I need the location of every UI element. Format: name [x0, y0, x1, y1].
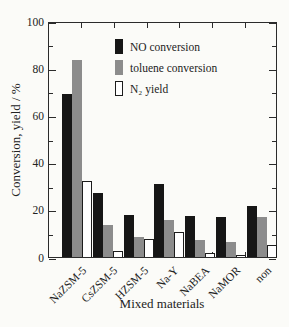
y-major-tick — [269, 70, 276, 71]
x-category-label: Na-Y — [154, 264, 181, 291]
legend-marker-toluene-conversion — [115, 60, 123, 75]
y-major-tick — [269, 23, 276, 24]
bar-n-yield-non — [267, 245, 277, 257]
x-boundary-tick — [179, 23, 180, 28]
y-minor-tick — [49, 141, 53, 142]
bar-toluene-conversion-cszsm-5 — [103, 225, 113, 257]
y-minor-tick — [49, 46, 53, 47]
legend-marker-no-conversion — [115, 39, 123, 54]
legend-label: toluene conversion — [130, 62, 217, 74]
legend-label: N₂ yield — [130, 83, 168, 95]
x-boundary-tick — [81, 23, 82, 28]
x-axis-title: Mixed materials — [120, 296, 205, 312]
legend-item: N₂ yield — [115, 81, 217, 96]
y-minor-tick — [272, 93, 276, 94]
bar-toluene-conversion-hzsm-5 — [134, 237, 144, 257]
bar-no-conversion-hzsm-5 — [124, 215, 134, 257]
y-minor-tick — [272, 141, 276, 142]
bar-chart-figure: 020406080100 NaZSM-5CsZSM-5HZSM-5Na-YNaB… — [0, 0, 289, 327]
legend-label: NO conversion — [130, 41, 200, 53]
y-minor-tick — [272, 46, 276, 47]
bar-n-yield-nazsm-5 — [82, 181, 92, 257]
y-major-tick — [269, 117, 276, 118]
y-tick-label: 0 — [0, 252, 44, 265]
legend-item: NO conversion — [115, 39, 217, 54]
bar-n-yield-hzsm-5 — [144, 239, 154, 257]
x-category-label: NaMOR — [206, 264, 243, 301]
x-category-label: non — [253, 264, 274, 285]
x-boundary-tick — [147, 23, 148, 28]
bar-no-conversion-na-y — [154, 184, 164, 257]
bar-no-conversion-nabea — [185, 216, 195, 257]
y-minor-tick — [49, 188, 53, 189]
bar-no-conversion-non — [247, 206, 257, 257]
y-major-tick — [269, 259, 276, 260]
y-minor-tick — [49, 235, 53, 236]
bar-no-conversion-nazsm-5 — [62, 94, 72, 257]
bar-toluene-conversion-nazsm-5 — [72, 60, 82, 257]
y-major-tick — [269, 211, 276, 212]
x-boundary-tick — [114, 23, 115, 28]
y-minor-tick — [272, 188, 276, 189]
bar-toluene-conversion-namor — [226, 242, 236, 257]
legend: NO conversiontoluene conversionN₂ yield — [115, 39, 217, 102]
y-major-tick — [49, 23, 56, 24]
y-axis-title: Conversion, yield / % — [8, 83, 24, 196]
y-major-tick — [49, 117, 56, 118]
y-major-tick — [49, 211, 56, 212]
bar-toluene-conversion-na-y — [164, 220, 174, 257]
y-tick-label: 100 — [0, 16, 44, 29]
y-tick-label: 80 — [0, 63, 44, 76]
legend-item: toluene conversion — [115, 60, 217, 75]
y-tick-label: 20 — [0, 204, 44, 217]
y-major-tick — [49, 164, 56, 165]
y-minor-tick — [272, 235, 276, 236]
bar-n-yield-namor — [236, 255, 246, 257]
bar-n-yield-na-y — [174, 232, 184, 257]
y-minor-tick — [49, 93, 53, 94]
y-major-tick — [49, 70, 56, 71]
y-major-tick — [49, 259, 56, 260]
bar-n-yield-cszsm-5 — [113, 251, 123, 257]
x-boundary-tick — [212, 23, 213, 28]
bar-n-yield-nabea — [205, 253, 215, 257]
legend-marker-n-yield — [115, 81, 123, 96]
bar-toluene-conversion-nabea — [195, 240, 205, 257]
bar-no-conversion-cszsm-5 — [93, 193, 103, 257]
x-boundary-tick — [245, 23, 246, 28]
y-major-tick — [269, 164, 276, 165]
bar-no-conversion-namor — [216, 217, 226, 257]
bar-toluene-conversion-non — [257, 217, 267, 257]
